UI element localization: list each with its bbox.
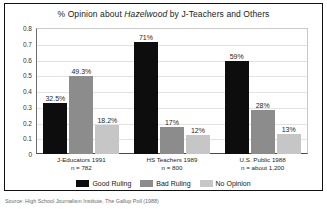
legend-item[interactable]: Bad Ruling bbox=[140, 180, 190, 187]
bar: 13% bbox=[277, 134, 301, 154]
x-axis-category: U.S. Public 1988n = about 1,200 bbox=[217, 156, 308, 172]
bar-group: 32.5%49.3%18.2% bbox=[36, 28, 127, 154]
x-axis-category-labels: J-Educators 1991n = 782HS Teachers 1989n… bbox=[36, 156, 308, 178]
x-axis-category-name: HS Teachers 1989 bbox=[147, 156, 198, 163]
bar-value-label: 17% bbox=[165, 119, 179, 126]
chart-title-prefix: % Opinion about bbox=[58, 9, 125, 19]
legend-swatch-icon bbox=[76, 180, 89, 187]
source-note: Source: High School Journalism Institute… bbox=[5, 198, 159, 204]
chart-screenshot: % Opinion about Hazelwood by J-Teachers … bbox=[0, 0, 327, 209]
bar-value-label: 32.5% bbox=[45, 95, 65, 102]
bar-value-label: 49.3% bbox=[71, 68, 91, 75]
bar-value-label: 18.2% bbox=[97, 117, 117, 124]
chart-title-suffix: by J-Teachers and Others bbox=[167, 9, 269, 19]
x-axis-category: J-Educators 1991n = 782 bbox=[36, 156, 127, 172]
bar: 18.2% bbox=[95, 125, 119, 154]
bar-value-label: 59% bbox=[230, 53, 244, 60]
x-axis-category-sample-size: n = 782 bbox=[36, 164, 127, 172]
chart-legend: Good RulingBad RulingNo Opinion bbox=[0, 180, 327, 187]
chart-title: % Opinion about Hazelwood by J-Teachers … bbox=[0, 9, 327, 19]
x-axis-category: HS Teachers 1989n = 800 bbox=[127, 156, 218, 172]
bar: 49.3% bbox=[69, 76, 93, 154]
chart-title-italic-term: Hazelwood bbox=[124, 9, 167, 19]
bar: 17% bbox=[160, 127, 184, 154]
x-axis-category-sample-size: n = 800 bbox=[127, 164, 218, 172]
legend-swatch-icon bbox=[200, 180, 213, 187]
bar: 71% bbox=[134, 42, 158, 154]
bar: 59% bbox=[225, 61, 249, 154]
legend-swatch-icon bbox=[140, 180, 153, 187]
bars-layer: 32.5%49.3%18.2%71%17%12%59%28%13% bbox=[36, 28, 308, 154]
x-axis-category-name: J-Educators 1991 bbox=[57, 156, 106, 163]
bar: 32.5% bbox=[43, 103, 67, 154]
legend-label: Bad Ruling bbox=[156, 180, 190, 187]
bar: 28% bbox=[251, 110, 275, 154]
bar-group: 71%17%12% bbox=[127, 28, 218, 154]
x-axis-category-name: U.S. Public 1988 bbox=[240, 156, 286, 163]
x-axis-category-sample-size: n = about 1,200 bbox=[217, 164, 308, 172]
bar-value-label: 28% bbox=[256, 102, 270, 109]
bar-value-label: 12% bbox=[191, 127, 205, 134]
legend-label: No Opinion bbox=[216, 180, 251, 187]
legend-item[interactable]: Good Ruling bbox=[76, 180, 131, 187]
bar-group: 59%28%13% bbox=[217, 28, 308, 154]
bar-value-label: 13% bbox=[282, 126, 296, 133]
legend-item[interactable]: No Opinion bbox=[200, 180, 251, 187]
legend-label: Good Ruling bbox=[92, 180, 131, 187]
bar: 12% bbox=[186, 135, 210, 154]
bar-value-label: 71% bbox=[139, 34, 153, 41]
